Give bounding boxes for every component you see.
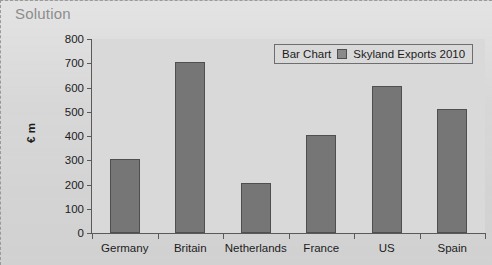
y-axis-tick-label: 500 bbox=[65, 106, 84, 118]
x-axis-tick-label: France bbox=[303, 242, 339, 254]
x-axis-tick-label: Netherlands bbox=[225, 242, 287, 254]
y-axis-tick-label: 600 bbox=[65, 82, 84, 94]
y-axis-tick bbox=[87, 185, 92, 186]
y-axis-tick-label: 300 bbox=[65, 154, 84, 166]
x-axis-tick-label: Spain bbox=[438, 242, 467, 254]
bar bbox=[437, 109, 467, 233]
solution-panel: Solution € m 0100200300400500600700800 G… bbox=[0, 0, 492, 265]
y-axis-tick-label: 800 bbox=[65, 33, 84, 45]
y-axis-tick bbox=[87, 63, 92, 64]
bar bbox=[175, 62, 205, 233]
bar bbox=[241, 183, 271, 233]
y-axis-tick-label: 100 bbox=[65, 203, 84, 215]
chart-legend: Bar Chart Skyland Exports 2010 bbox=[274, 44, 473, 64]
y-axis-tick-label: 700 bbox=[65, 57, 84, 69]
x-axis-tick bbox=[158, 233, 159, 239]
x-axis-tick bbox=[485, 233, 486, 239]
x-axis-tick bbox=[223, 233, 224, 239]
y-axis-tick bbox=[87, 39, 92, 40]
x-axis-tick-label: Britain bbox=[174, 242, 207, 254]
bar-chart: € m 0100200300400500600700800 GermanyBri… bbox=[1, 1, 492, 265]
y-axis-tick bbox=[87, 112, 92, 113]
x-axis-tick bbox=[420, 233, 421, 239]
legend-color-swatch bbox=[337, 49, 347, 59]
legend-series-label: Skyland Exports 2010 bbox=[353, 48, 465, 60]
plot-area: 0100200300400500600700800 GermanyBritain… bbox=[91, 39, 485, 234]
y-axis-title: € m bbox=[25, 123, 37, 143]
legend-chart-type-label: Bar Chart bbox=[282, 48, 331, 60]
y-axis-tick-label: 400 bbox=[65, 130, 84, 142]
bar bbox=[110, 159, 140, 233]
y-axis-tick bbox=[87, 136, 92, 137]
x-axis-tick bbox=[289, 233, 290, 239]
y-axis-tick-label: 0 bbox=[78, 227, 84, 239]
x-axis-tick-label: Germany bbox=[101, 242, 148, 254]
x-axis-tick-label: US bbox=[379, 242, 395, 254]
bar bbox=[306, 135, 336, 233]
y-axis-tick bbox=[87, 88, 92, 89]
y-axis-tick bbox=[87, 160, 92, 161]
x-axis-tick bbox=[354, 233, 355, 239]
bar bbox=[372, 86, 402, 233]
x-axis-tick bbox=[92, 233, 93, 239]
y-axis-tick bbox=[87, 209, 92, 210]
y-axis-tick-label: 200 bbox=[65, 179, 84, 191]
